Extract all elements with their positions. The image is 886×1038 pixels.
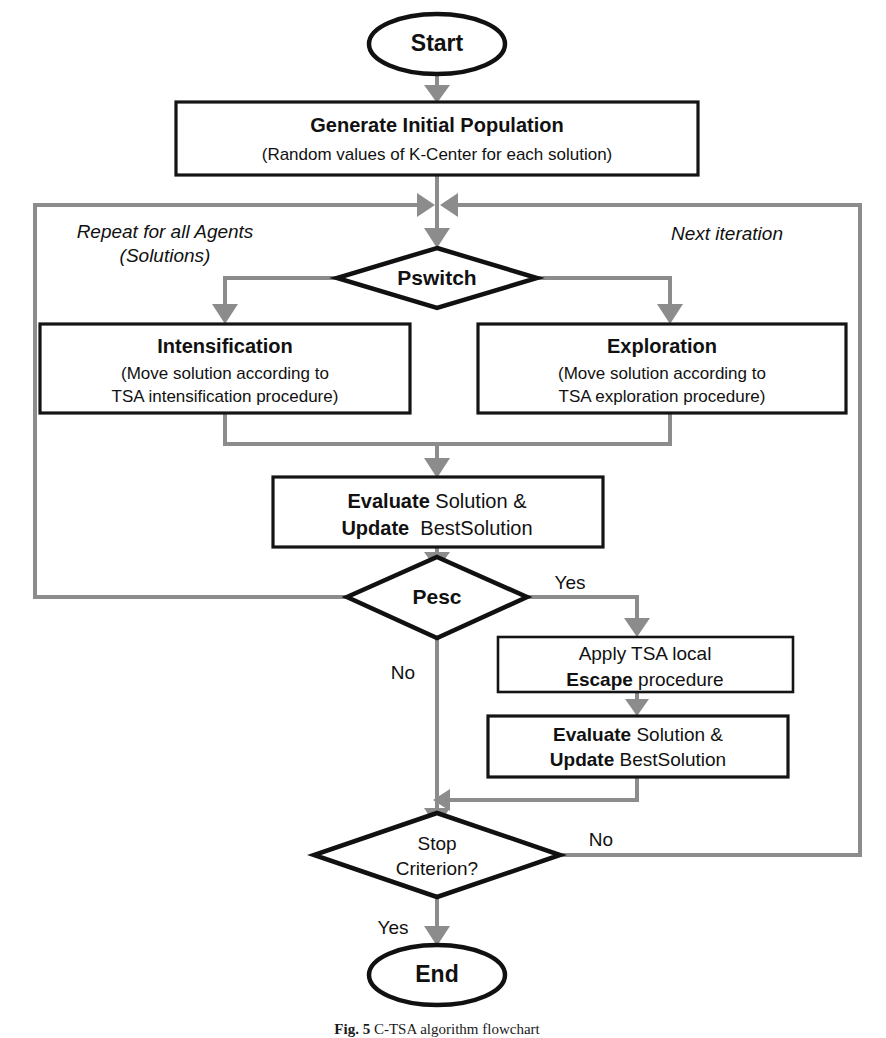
node-start[interactable]: Start [369,14,505,74]
start-label: Start [411,30,464,56]
figure-caption: Fig. 5 C-TSA algorithm flowchart [334,1021,540,1037]
escape-line1: Apply TSA local [579,643,712,664]
escape-line2: Escape procedure [566,669,723,690]
evaluate-main-line2-bold: Update [341,517,409,539]
evaluate-main-line1-bold: Evaluate [348,490,430,512]
evaluate-main-line1: Evaluate Solution & [348,490,528,512]
intensification-line2: (Move solution according to [121,364,329,383]
escape-line2-rest: procedure [633,669,724,690]
node-apply-tsa-local-escape[interactable]: Apply TSA local Escape procedure [498,637,793,692]
evaluate-escape-line1-rest: Solution & [631,724,723,745]
edge-label-pesc-yes: Yes [555,572,586,593]
evaluate-main-line2: Update BestSolution [341,517,532,539]
exploration-title: Exploration [607,335,717,357]
end-label: End [415,961,458,987]
node-exploration[interactable]: Exploration (Move solution according to … [478,324,846,413]
intensification-line3: TSA intensification procedure) [112,387,339,406]
node-evaluate-update-escape[interactable]: Evaluate Solution & Update BestSolution [488,716,788,777]
edge-label-stop-no: No [589,829,613,850]
stop-criterion-line2: Criterion? [396,858,478,879]
caption-prefix: Fig. 5 [334,1021,374,1037]
node-generate-initial-population[interactable]: Generate Initial Population (Random valu… [176,102,698,175]
generate-subtitle: (Random values of K-Center for each solu… [262,145,613,164]
evaluate-main-line2-rest: BestSolution [409,517,532,539]
escape-line2-bold: Escape [566,669,633,690]
evaluate-escape-line2: Update BestSolution [550,749,726,770]
evaluate-escape-line1-bold: Evaluate [553,724,631,745]
node-evaluate-update-main[interactable]: Evaluate Solution & Update BestSolution [273,477,603,547]
evaluate-escape-line2-bold: Update [550,749,614,770]
flowchart-diagram: Start Generate Initial Population (Rando… [0,0,886,1038]
edge-label-stop-yes: Yes [378,917,409,938]
stop-criterion-line1: Stop [417,833,456,854]
annotation-next-iteration: Next iteration [671,223,783,244]
annotation-repeat-line1: Repeat for all Agents [77,221,254,242]
pswitch-label: Pswitch [397,266,476,289]
pesc-label: Pesc [412,585,461,608]
node-intensification[interactable]: Intensification (Move solution according… [40,324,410,413]
evaluate-escape-line2-rest: BestSolution [614,749,726,770]
exploration-line3: TSA exploration procedure) [559,387,766,406]
caption-text: Fig. 5 C-TSA algorithm flowchart [334,1021,540,1037]
evaluate-escape-line1: Evaluate Solution & [553,724,723,745]
exploration-line2: (Move solution according to [558,364,766,383]
node-end[interactable]: End [369,945,505,1005]
intensification-title: Intensification [157,335,293,357]
annotation-repeat-line2: (Solutions) [120,245,211,266]
generate-title: Generate Initial Population [310,114,563,136]
evaluate-main-line1-rest: Solution & [430,490,527,512]
caption-body: C-TSA algorithm flowchart [374,1021,541,1037]
edge-label-pesc-no: No [391,662,415,683]
